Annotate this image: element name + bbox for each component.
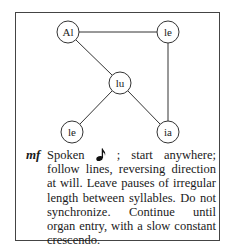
svg-text:le: le bbox=[164, 26, 172, 38]
instruction-body: ; start anywhere; follow lines, reversin… bbox=[47, 148, 216, 247]
node-le-bottom: le bbox=[61, 121, 83, 143]
eighth-note-icon bbox=[96, 148, 106, 161]
edge-lu-le bbox=[80, 91, 112, 124]
node-le-top: le bbox=[157, 21, 179, 43]
instruction-text: Spoken ; start anywhere; follow lines, r… bbox=[47, 148, 216, 247]
performance-instructions: mf Spoken ; start anywhere; follow lines… bbox=[26, 148, 216, 247]
svg-text:le: le bbox=[68, 126, 76, 138]
node-al: Al bbox=[57, 21, 79, 43]
node-lu: lu bbox=[109, 72, 131, 94]
edge-al-lu bbox=[76, 40, 112, 75]
dynamic-marking: mf bbox=[26, 148, 40, 162]
svg-text:lu: lu bbox=[116, 77, 125, 89]
svg-text:ia: ia bbox=[164, 126, 172, 138]
svg-text:Al: Al bbox=[63, 26, 74, 38]
node-ia: ia bbox=[157, 121, 179, 143]
spoken-label: Spoken bbox=[47, 148, 85, 162]
edge-lu-ia bbox=[128, 91, 160, 124]
